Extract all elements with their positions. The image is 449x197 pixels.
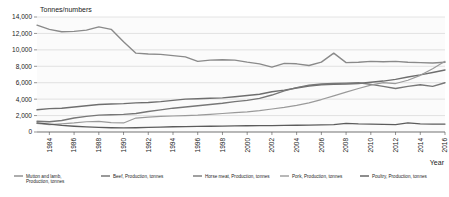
legend: Mutton and lamb,Production, tonnesBeef, …: [14, 174, 428, 184]
legend-label-0: Mutton and lamb,: [26, 174, 62, 179]
legend-label-2: Horse meat, Production, tonnes: [205, 174, 270, 179]
legend-label-4: Poultry, Production, tonnes: [372, 174, 428, 179]
x-tick-label: 1990: [120, 138, 127, 153]
y-tick-label: 4,000: [16, 96, 33, 103]
y-tick-label: 2,000: [16, 112, 33, 119]
x-tick-label: 1992: [145, 138, 152, 153]
x-axis-ticks: 1984198619881990199219941996199820002002…: [46, 132, 449, 152]
y-tick-label: 12,000: [12, 30, 32, 37]
legend-label-3: Pork, Production, tonnes: [292, 174, 343, 179]
y-tick-label: 10,000: [12, 46, 32, 53]
y-tick-label: 8,000: [16, 63, 33, 70]
x-tick-label: 2014: [417, 138, 424, 153]
y-tick-label: 6,000: [16, 79, 33, 86]
x-tick-label: 1988: [95, 138, 102, 153]
x-tick-label: 1986: [70, 138, 77, 153]
y-tick-label: 0: [28, 128, 32, 135]
y-tick-label: 14,000: [12, 13, 32, 20]
x-tick-label: 2016: [441, 138, 448, 153]
x-tick-label: 2012: [392, 138, 399, 153]
x-tick-label: 1994: [169, 138, 176, 153]
x-axis-title: Year: [430, 159, 445, 166]
x-tick-label: 2004: [293, 138, 300, 153]
x-tick-label: 2006: [318, 138, 325, 153]
legend-label-0-cont: Production, tonnes: [26, 179, 65, 184]
chart-canvas: 02,0004,0006,0008,00010,00012,00014,000 …: [0, 0, 449, 197]
line-chart: 02,0004,0006,0008,00010,00012,00014,000 …: [0, 0, 449, 197]
y-axis-title: Tonnes/numbers: [40, 6, 92, 13]
x-tick-label: 1996: [194, 138, 201, 153]
x-tick-label: 1984: [46, 138, 53, 153]
x-tick-label: 2010: [367, 138, 374, 153]
x-tick-label: 2002: [268, 138, 275, 153]
legend-label-1: Beef, Production, tonnes: [113, 174, 164, 179]
x-tick-label: 2008: [342, 138, 349, 153]
x-tick-label: 1998: [219, 138, 226, 153]
x-tick-label: 2000: [244, 138, 251, 153]
y-axis-ticks: 02,0004,0006,0008,00010,00012,00014,000: [12, 13, 37, 135]
